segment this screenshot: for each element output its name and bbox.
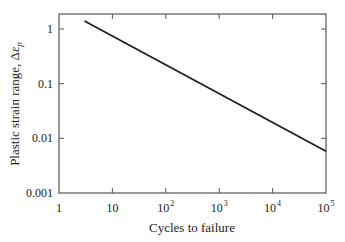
y-tick-label: 0.1 [38,77,53,91]
x-axis-label: Cycles to failure [149,220,235,235]
y-tick-label: 0.01 [32,131,53,145]
x-tick-label: 105 [318,199,335,215]
x-axis-ticks: 110102103104105 [56,14,335,215]
x-tick-label: 102 [157,199,174,215]
x-tick-label: 104 [264,199,281,215]
y-tick-label: 1 [47,22,53,36]
x-tick-label: 103 [211,199,228,215]
y-axis-label-main: Plastic strain range, Δε [7,46,22,166]
x-tick-label: 10 [106,201,118,215]
y-axis-label: Plastic strain range, Δεp [7,42,24,166]
plot-frame [59,14,326,193]
data-series [85,21,327,151]
y-axis-ticks: 10.10.010.001 [26,22,326,200]
y-axis-label-subscript: p [14,42,24,48]
x-tick-label: 1 [56,201,62,215]
chart: 110102103104105 10.10.010.001 Cycles to … [0,0,345,242]
y-tick-label: 0.001 [26,186,53,200]
series-line [85,21,327,151]
